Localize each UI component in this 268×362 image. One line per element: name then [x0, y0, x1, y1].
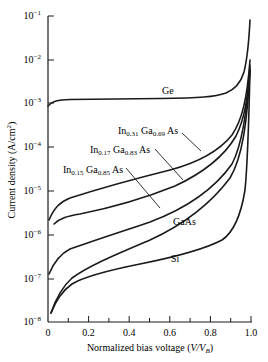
- label-in031: In0.31 Ga0.69 As: [118, 125, 178, 138]
- curve-gaas: [51, 70, 250, 313]
- label-gaas: GaAs: [173, 216, 196, 227]
- svg-text:1.0: 1.0: [245, 327, 258, 338]
- pointer-in017: [155, 149, 183, 180]
- label-in017: In0.17 Ga0.83 As: [90, 144, 150, 157]
- x-ticks: [68, 316, 251, 322]
- y-ticks: [48, 16, 54, 279]
- svg-text:10−3: 10−3: [24, 96, 42, 108]
- svg-text:0.8: 0.8: [204, 327, 217, 338]
- curve-ge: [48, 20, 250, 106]
- svg-text:10−1: 10−1: [24, 9, 42, 21]
- svg-text:10−7: 10−7: [24, 272, 42, 284]
- svg-text:10−5: 10−5: [24, 184, 42, 196]
- svg-text:0.2: 0.2: [82, 327, 95, 338]
- svg-text:0.6: 0.6: [164, 327, 177, 338]
- svg-text:0.4: 0.4: [123, 327, 136, 338]
- y-axis-title: Current density (A/cm2): [5, 122, 18, 219]
- svg-text:10−6: 10−6: [24, 228, 42, 240]
- label-ge: Ge: [162, 85, 174, 96]
- x-tick-labels: 0 0.2 0.4 0.6 0.8 1.0: [46, 327, 258, 338]
- label-si: Si: [171, 253, 180, 264]
- x-axis-title: Normalized bias voltage (V/VB): [87, 342, 213, 355]
- label-in015: In0.15 Ga0.85 As: [63, 164, 123, 177]
- curve-si: [51, 70, 250, 313]
- svg-text:10−8: 10−8: [24, 315, 42, 327]
- svg-text:0: 0: [46, 327, 51, 338]
- svg-text:10−2: 10−2: [24, 53, 42, 65]
- curve-in017: [54, 65, 250, 224]
- pointer-in031: [182, 133, 201, 151]
- chart: 10−1 10−2 10−3 10−4 10−5 10−6 10−7 10−8 …: [0, 0, 268, 362]
- y-tick-labels: 10−1 10−2 10−3 10−4 10−5 10−6 10−7 10−8: [24, 9, 42, 327]
- svg-text:10−4: 10−4: [24, 140, 42, 152]
